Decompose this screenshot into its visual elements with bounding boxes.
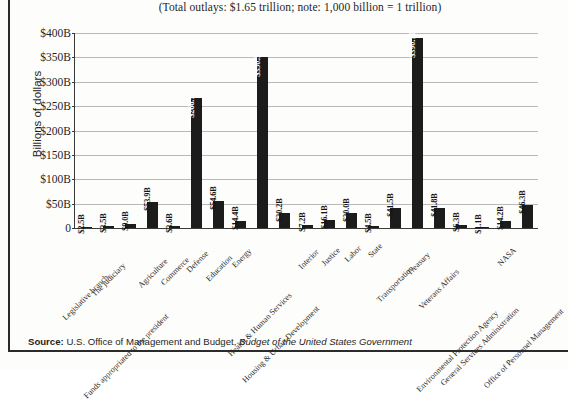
y-axis-tick-label: $250B xyxy=(40,100,71,112)
x-axis-category-label-text: General Services Administration xyxy=(439,306,521,388)
bar-value-label: $53.9B xyxy=(143,187,152,211)
bar[interactable] xyxy=(257,57,268,228)
bar-group[interactable]: $7.2BInterior xyxy=(297,33,317,228)
bar-value-label: $14.2B xyxy=(496,206,505,230)
y-axis-tick-mark xyxy=(72,228,75,229)
bar-value-label: $6.3B xyxy=(452,212,461,232)
page-bottom-rule xyxy=(8,350,568,352)
bar-value-label: $30.2B xyxy=(275,198,284,222)
y-axis-tick-mark xyxy=(72,204,75,205)
bar-value-label: $54.6B xyxy=(209,187,218,211)
bar-value-label: $41.5B xyxy=(386,193,395,217)
bar-group[interactable]: $16.1BJustice xyxy=(319,33,339,228)
y-axis-tick-mark xyxy=(72,106,75,107)
bar-group[interactable]: $390.1BTreasury xyxy=(407,33,427,228)
x-axis-category-label-text: NASA xyxy=(496,246,518,268)
bar-value-label: $30.0B xyxy=(342,199,351,223)
bar-group[interactable]: $53.9BAgriculture xyxy=(142,33,162,228)
y-axis-tick-label: $100B xyxy=(40,173,71,185)
x-axis-category-label-text: Funds appropriated to the president xyxy=(82,312,170,400)
bar-group[interactable]: $30.2BHousing & Urban Development xyxy=(274,33,294,228)
bar-group[interactable]: $30.0BLabor xyxy=(341,33,361,228)
y-axis-tick-mark xyxy=(72,82,75,83)
y-axis-tick-label: $200B xyxy=(40,125,71,137)
y-axis-tick-label: $150B xyxy=(40,149,71,161)
x-axis-category-label-text: Veterans Affairs xyxy=(417,267,461,311)
bar-group[interactable]: $9.0BFunds appropriated to the president xyxy=(120,33,140,228)
bar-value-label: $7.2B xyxy=(298,212,307,232)
x-axis-category-label: Veterans Affairs xyxy=(454,230,498,274)
plot-area: $400B$350B$300B$250B$200B$150B$100B$50B0… xyxy=(74,33,538,229)
bar-value-label: $46.3B xyxy=(518,191,527,215)
bar-group[interactable]: $6.3BEnvironmental Protection Agency xyxy=(451,33,471,228)
y-axis-tick-label: $300B xyxy=(40,76,71,88)
bar-group[interactable]: $41.5BTransportation xyxy=(385,33,405,228)
bar-value-label: $2.5B xyxy=(77,214,86,234)
bar-group[interactable]: $3.5BThe judiciary xyxy=(98,33,118,228)
x-axis-category-label: State xyxy=(377,230,395,248)
bar-group[interactable]: $14.4BEnergy xyxy=(230,33,250,228)
page-left-rule xyxy=(8,0,10,352)
y-axis-tick-label: $350B xyxy=(40,51,71,63)
bar-value-label: $4.5B xyxy=(364,213,373,233)
bar-group[interactable]: $266.1BDefense xyxy=(186,33,206,228)
source-title-italic: Budget of the United States Government xyxy=(239,336,412,347)
bar-group[interactable]: $4.5BState xyxy=(363,33,383,228)
bar-value-label: $1.1B xyxy=(474,215,483,235)
y-axis-tick-label: 0 xyxy=(65,222,71,234)
bar-value-label: $9.0B xyxy=(121,211,130,231)
y-axis-tick-label: $400B xyxy=(40,27,71,39)
bar-value-label: $3.5B xyxy=(99,214,108,234)
y-axis-tick-mark xyxy=(72,155,75,156)
bar-group[interactable]: $54.6BEducation xyxy=(208,33,228,228)
bar-group[interactable]: $14.2BNASA xyxy=(495,33,515,228)
bar-group[interactable]: $1.1BGeneral Services Administration xyxy=(473,33,493,228)
bar-value-label: $390.1B xyxy=(408,30,417,58)
bar-value-label: $16.1B xyxy=(320,205,329,229)
bar-value-label: $14.4B xyxy=(231,206,240,230)
y-axis-tick-label: $50B xyxy=(46,198,71,210)
bar-value-label: $3.6B xyxy=(165,213,174,233)
y-axis-tick-mark xyxy=(72,57,75,58)
y-axis-tick-mark xyxy=(72,179,75,180)
bar-group[interactable]: $41.8BVeterans Affairs xyxy=(429,33,449,228)
bar-group[interactable]: $3.6BCommerce xyxy=(164,33,184,228)
source-line: Source: U.S. Office of Management and Bu… xyxy=(28,336,412,347)
x-axis-category-label: NASA xyxy=(511,230,533,252)
bar-group[interactable]: $46.3BOffice of Personnel Management xyxy=(517,33,537,228)
bar-group[interactable]: $2.5BLegislative branch xyxy=(76,33,96,228)
source-text: U.S. Office of Management and Budget, xyxy=(64,336,239,347)
bar-value-label: $41.8B xyxy=(430,193,439,217)
y-axis-tick-mark xyxy=(72,131,75,132)
bar-value-label: $266.1B xyxy=(187,90,196,118)
bar[interactable] xyxy=(412,38,423,228)
bar-group[interactable]: $350.5BHealth & Human Services xyxy=(252,33,272,228)
bar-value-label: $350.5B xyxy=(253,49,262,77)
chart-title: (Total outlays: $1.65 trillion; note: 1,… xyxy=(60,1,540,13)
y-axis-tick-mark xyxy=(72,33,75,34)
x-axis-category-label-text: Health & Human Services xyxy=(227,291,294,358)
source-label: Source: xyxy=(28,336,64,347)
